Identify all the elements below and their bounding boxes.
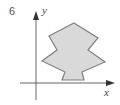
coordinate-diagram [0, 0, 120, 105]
y-axis-arrow-icon [33, 11, 39, 20]
tree-shape [42, 23, 105, 80]
x-axis-arrow-icon [106, 80, 115, 86]
